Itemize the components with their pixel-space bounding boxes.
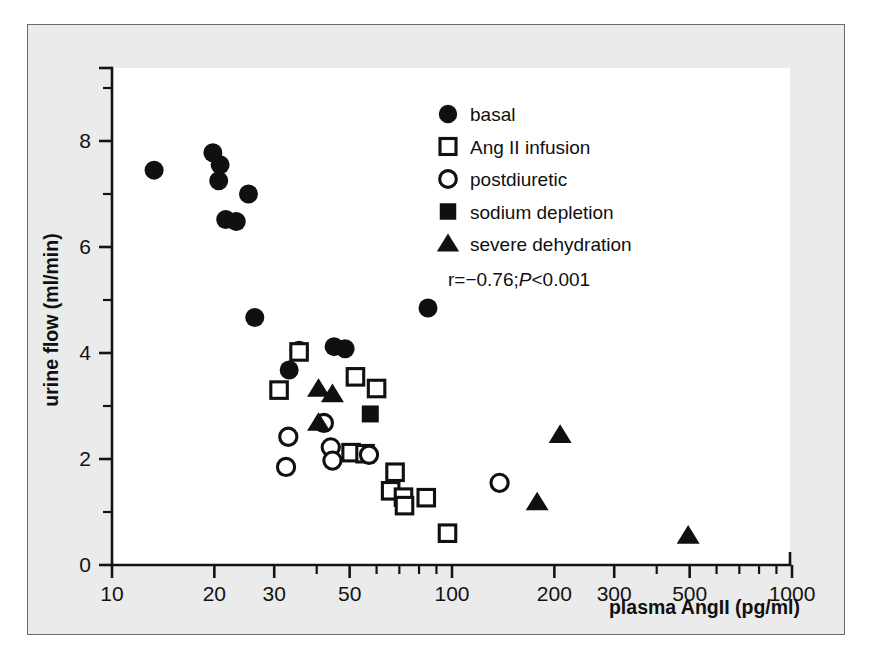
legend-marker-filled-square: [440, 203, 456, 219]
data-point: [347, 369, 364, 386]
data-point: [145, 161, 164, 180]
y-tick-label: 4: [79, 341, 91, 364]
plot-svg: 02468 102030501002003005001000 urine flo…: [0, 0, 871, 658]
data-point: [396, 497, 413, 514]
legend-label: sodium depletion: [470, 202, 614, 223]
x-axis-title: plasma AngII (pg/ml): [609, 596, 800, 618]
y-tick-label: 8: [79, 129, 91, 152]
scatter-plot: 02468 102030501002003005001000 urine flo…: [0, 0, 871, 658]
x-tick-label: 20: [203, 582, 226, 605]
legend-label: severe dehydration: [470, 234, 632, 255]
data-point: [439, 525, 456, 542]
legend-label: Ang II infusion: [470, 137, 590, 158]
data-point: [324, 452, 341, 469]
data-point: [271, 382, 288, 399]
legend-marker-open-square: [440, 138, 456, 154]
data-point: [368, 380, 385, 397]
data-point: [336, 339, 355, 358]
x-tick-label: 200: [537, 582, 572, 605]
data-point: [291, 344, 308, 361]
data-point: [209, 171, 228, 190]
x-tick-label: 100: [434, 582, 469, 605]
data-point: [277, 458, 294, 475]
y-tick-label: 2: [79, 447, 91, 470]
correlation-annotation: r=−0.76;P<0.001: [448, 269, 590, 290]
legend-marker-open-circle: [440, 171, 457, 188]
data-point: [239, 185, 258, 204]
data-point: [491, 474, 508, 491]
data-point: [280, 428, 297, 445]
data-point: [387, 464, 404, 481]
x-tick-label: 10: [100, 582, 123, 605]
data-point: [419, 298, 438, 317]
data-point: [280, 360, 299, 379]
legend-label: basal: [470, 104, 515, 125]
data-point: [227, 212, 246, 231]
y-axis-title: urine flow (ml/min): [40, 233, 62, 406]
series-sodium-depletion: [362, 405, 379, 422]
y-tick-label: 6: [79, 235, 91, 258]
y-tick-label: 0: [79, 553, 91, 576]
y-axis: 02468: [79, 68, 112, 576]
legend-marker-filled-circle: [439, 105, 457, 123]
x-tick-label: 50: [338, 582, 361, 605]
data-point: [418, 489, 435, 506]
x-tick-label: 30: [263, 582, 286, 605]
data-point: [360, 446, 377, 463]
data-point: [362, 405, 379, 422]
legend-label: postdiuretic: [470, 169, 567, 190]
data-point: [245, 308, 264, 327]
